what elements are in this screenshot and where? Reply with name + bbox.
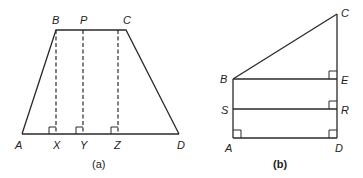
label-R: R: [341, 104, 349, 116]
label-A: A: [14, 139, 22, 151]
label-X: X: [52, 139, 61, 151]
figure-b: C B E S R A D (b): [220, 7, 349, 170]
label-B: B: [52, 14, 59, 26]
right-angle-R-icon: [329, 101, 337, 109]
label-B: B: [220, 73, 227, 85]
label-S: S: [221, 104, 229, 116]
label-Y: Y: [80, 139, 88, 151]
caption-a: (a): [92, 158, 105, 170]
label-P: P: [80, 14, 88, 26]
label-C: C: [123, 14, 131, 26]
label-D: D: [177, 139, 185, 151]
right-angle-Z-icon: [111, 127, 118, 134]
label-Z: Z: [113, 139, 122, 151]
right-angle-D-icon: [329, 130, 337, 138]
right-angle-E-icon: [329, 71, 337, 79]
segment-BC: [233, 14, 337, 79]
caption-b: (b): [273, 158, 287, 170]
figure-a: B P C A X Y Z D (a): [14, 14, 185, 170]
label-A: A: [224, 142, 232, 154]
trapezium-sides: [22, 30, 179, 134]
right-angle-Y-icon: [76, 127, 83, 134]
geometry-figures: B P C A X Y Z D (a) C B E S R A D (b): [0, 0, 363, 178]
label-E: E: [341, 74, 349, 86]
right-angle-A-icon: [233, 130, 241, 138]
right-angle-X-icon: [49, 127, 56, 134]
label-C: C: [341, 7, 349, 19]
label-D: D: [335, 142, 343, 154]
